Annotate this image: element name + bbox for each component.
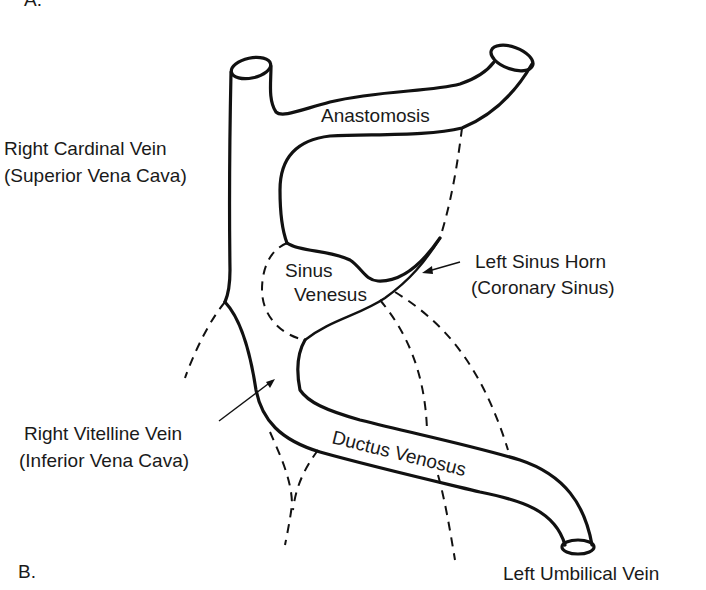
left-dashed-branch	[185, 302, 225, 378]
left-sinus-horn-arrowhead	[422, 266, 433, 274]
label-left-sinus-horn-line1: Left Sinus Horn	[475, 251, 606, 272]
label-right-cardinal-line1: Right Cardinal Vein	[4, 138, 167, 159]
left-cardinal-dashed-path	[440, 128, 462, 238]
label-left-sinus-horn-line2: (Coronary Sinus)	[471, 277, 615, 298]
label-right-cardinal-line2: (Superior Vena Cava)	[4, 165, 187, 186]
dashed-v-right	[293, 450, 318, 510]
label-sinus-line2: Venesus	[294, 284, 367, 305]
label-sinus-line1: Sinus	[285, 260, 333, 281]
dashed-v-left	[270, 432, 292, 545]
dashed-vitelline-left	[380, 300, 427, 430]
right-vitelline-arrowhead	[266, 379, 275, 388]
label-right-vitelline-line2: (Inferior Vena Cava)	[19, 450, 189, 471]
label-right-vitelline-line1: Right Vitelline Vein	[24, 423, 182, 444]
label-anastomosis: Anastomosis	[321, 105, 430, 126]
dashed-vitelline-right	[395, 292, 508, 450]
panel-label-b: B.	[18, 561, 36, 582]
dashed-below-ductus	[438, 475, 455, 560]
venous-system-diagram: A. Anastomosis Right Cardinal Vein (Supe…	[0, 0, 706, 590]
right-cardinal-vein-opening	[229, 54, 272, 82]
right-cardinal-left-wall	[225, 72, 231, 302]
ductus-venosus-lower-wall	[225, 302, 565, 545]
label-left-umbilical: Left Umbilical Vein	[503, 563, 659, 584]
left-umbilical-vein-opening	[562, 540, 594, 554]
panel-label-a: A.	[24, 0, 42, 10]
